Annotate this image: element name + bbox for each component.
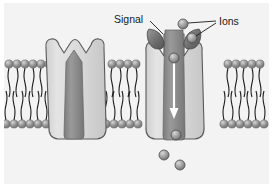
- lipid-heads-outer-middle: [108, 60, 140, 68]
- lipid-heads-inner-right: [220, 120, 268, 128]
- closed-channel[interactable]: [46, 39, 106, 139]
- lipid-heads-outer-right: [224, 60, 264, 68]
- signal-label: Signal: [114, 13, 143, 25]
- membrane-segment-right: [220, 60, 268, 128]
- figure-root: Signal Ions: [0, 0, 273, 187]
- ion-pore-lower: [171, 130, 181, 140]
- lipid-heads-inner-middle: [102, 120, 142, 128]
- lipid-heads-outer-left: [5, 60, 53, 68]
- membrane-segment-middle: [102, 60, 142, 128]
- ion-channel-diagram: Signal Ions: [0, 0, 273, 187]
- ions-label: Ions: [219, 15, 239, 27]
- ion-extracellular-1: [178, 19, 188, 29]
- ion-intracellular-1: [159, 150, 169, 160]
- leader-line-ions-a: [188, 21, 216, 23]
- ion-channel-mouth: [187, 33, 197, 43]
- ion-pore-upper: [169, 53, 179, 63]
- ion-intracellular-2: [175, 160, 185, 170]
- lipid-tails-outer-right: [227, 68, 261, 97]
- lipid-tails-outer-middle: [111, 68, 137, 97]
- lipid-bilayer: [2, 60, 268, 128]
- lipid-tails-inner-middle: [105, 91, 139, 120]
- closed-channel-pore: [64, 50, 84, 139]
